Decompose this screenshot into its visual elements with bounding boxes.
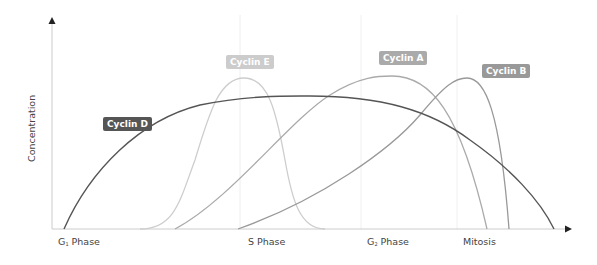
x-tick-mitosis: Mitosis <box>463 236 496 247</box>
cyclin-chart <box>0 0 597 265</box>
x-axis-arrow-icon <box>565 226 572 233</box>
g1-suffix: Phase <box>69 236 100 247</box>
g2-suffix: Phase <box>378 236 409 247</box>
cyclin-d-curve <box>64 96 554 229</box>
y-axis-arrow-icon <box>49 17 56 24</box>
y-axis-label: Concentration <box>26 95 37 162</box>
cyclin-d-label: Cyclin D <box>103 117 152 131</box>
x-tick-g2-phase: G2 Phase <box>367 236 409 247</box>
cyclin-b-label: Cyclin B <box>482 64 530 78</box>
x-tick-s-phase: S Phase <box>248 236 285 247</box>
x-tick-g1-phase: G1 Phase <box>58 236 100 247</box>
cyclin-e-label: Cyclin E <box>226 55 274 69</box>
cyclin-a-label: Cyclin A <box>379 51 427 65</box>
cyclin-e-curve <box>140 78 325 229</box>
cyclin-a-curve <box>175 76 487 229</box>
